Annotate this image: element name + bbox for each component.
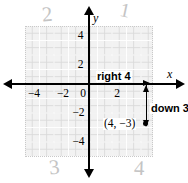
y-tick-label-2: 2 [75, 59, 86, 71]
x-tick-label-neg4: −4 [25, 88, 43, 100]
x-axis-left-arrowhead [3, 79, 12, 89]
right-4-arrow-shaft [89, 83, 146, 85]
x-tick-label-zero: 0 [78, 88, 88, 100]
down-3-callout-label: down 3 [150, 103, 188, 114]
handwritten-mark-top-left: 2 [41, 4, 53, 26]
x-axis-right-arrowhead [176, 79, 185, 89]
y-axis-label: y [93, 12, 98, 24]
handwritten-mark-bottom-right: 4 [134, 158, 145, 179]
handwritten-mark-bottom-left: 3 [48, 157, 61, 179]
y-axis-down-arrowhead [84, 169, 94, 178]
handwritten-mark-top-right: 1 [118, 0, 132, 21]
y-axis-line [88, 14, 90, 171]
y-tick-label-4: 4 [75, 30, 86, 42]
x-tick-label-neg2: −2 [54, 88, 72, 100]
y-tick-label-neg2: −2 [70, 107, 87, 119]
coordinate-plane-diagram: 2 1 3 4 x y −4 −2 0 2 4 2 −2 −4 right 4 … [0, 0, 188, 183]
x-tick-label-2: 2 [112, 88, 122, 100]
y-tick-label-neg4: −4 [70, 136, 87, 148]
right-4-callout-label: right 4 [96, 71, 132, 82]
x-axis-label: x [167, 68, 172, 80]
plotted-point-marker [143, 121, 148, 126]
down-3-arrowhead-up [143, 85, 149, 92]
plotted-point-label: (4, −3) [103, 118, 136, 130]
